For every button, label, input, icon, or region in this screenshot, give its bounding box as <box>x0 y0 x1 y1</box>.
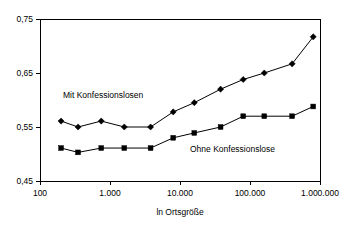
data-point-marker <box>311 104 316 109</box>
chart-container: 0,750,650,550,45 1001.00010.000100.0001.… <box>0 0 350 227</box>
data-point-marker <box>122 146 127 151</box>
series-label-1: Mit Konfessionslosen <box>63 90 144 100</box>
data-point-marker <box>192 131 197 136</box>
data-point-marker <box>191 100 197 106</box>
data-point-marker <box>241 114 246 119</box>
chart-axes <box>40 19 320 181</box>
y-axis-tick-label: 0,65 <box>16 68 33 78</box>
data-point-marker <box>75 124 81 130</box>
chart-tick-marks <box>36 19 320 185</box>
data-point-marker <box>171 135 176 140</box>
x-axis-tick-label: 1.000 <box>99 188 121 198</box>
series-label-2: Ohne Konfessionslose <box>190 144 275 154</box>
x-axis-tick-label: 1.000.000 <box>301 188 339 198</box>
y-axis-tick-label: 0,55 <box>16 122 33 132</box>
y-axis-tick-label: 0,75 <box>16 14 33 24</box>
series-1 <box>58 34 316 130</box>
data-point-marker <box>170 109 176 115</box>
data-point-marker <box>262 114 267 119</box>
x-axis-tick-label: 100 <box>33 188 47 198</box>
data-point-marker <box>218 125 223 130</box>
x-axis-tick-label: 100.000 <box>235 188 266 198</box>
x-axis-title: ln Ortsgröße <box>156 207 204 217</box>
data-point-marker <box>99 146 104 151</box>
data-point-marker <box>98 118 104 124</box>
series-annotations: Mit KonfessionslosenOhne Konfessionslose <box>63 90 275 154</box>
series-2 <box>59 104 316 155</box>
data-point-marker <box>58 118 64 124</box>
series-line <box>61 37 313 127</box>
data-point-marker <box>261 70 267 76</box>
data-point-marker <box>148 146 153 151</box>
x-axis-tick-labels: 1001.00010.000100.0001.000.000 <box>33 188 339 198</box>
data-point-marker <box>217 86 223 92</box>
y-axis-tick-labels: 0,750,650,550,45 <box>16 14 33 186</box>
data-point-marker <box>76 150 81 155</box>
data-point-marker <box>121 124 127 130</box>
data-point-marker <box>59 146 64 151</box>
data-point-marker <box>240 76 246 82</box>
plot-frame <box>40 19 320 181</box>
data-point-marker <box>147 124 153 130</box>
data-point-marker <box>290 114 295 119</box>
y-axis-tick-label: 0,45 <box>16 176 33 186</box>
line-chart: 0,750,650,550,45 1001.00010.000100.0001.… <box>0 0 350 227</box>
x-axis-tick-label: 10.000 <box>167 188 193 198</box>
